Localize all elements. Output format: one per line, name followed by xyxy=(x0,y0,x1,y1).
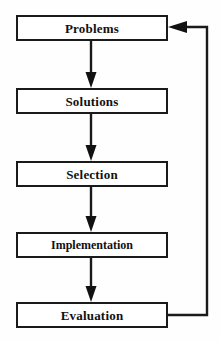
connector-problems-to-solutions xyxy=(86,41,97,88)
arrowhead-left-icon xyxy=(168,21,187,33)
flow-node-solutions[interactable]: Solutions xyxy=(16,88,168,114)
arrowhead-down-icon xyxy=(86,286,97,302)
connector-implementation-to-evaluation xyxy=(86,258,97,302)
connector-solutions-to-selection xyxy=(86,114,97,161)
connector-selection-to-implementation xyxy=(86,187,97,232)
flow-node-selection[interactable]: Selection xyxy=(16,161,168,187)
flow-node-selection-label: Selection xyxy=(66,168,118,181)
flow-node-problems-label: Problems xyxy=(65,22,119,35)
flow-node-solutions-label: Solutions xyxy=(65,95,118,108)
flow-node-implementation[interactable]: Implementation xyxy=(16,232,168,258)
arrowhead-down-icon xyxy=(86,145,97,161)
connector-evaluation-to-problems-feedback xyxy=(168,21,207,315)
flow-node-evaluation-label: Evaluation xyxy=(61,309,124,322)
flow-node-problems[interactable]: Problems xyxy=(16,15,168,41)
arrowhead-down-icon xyxy=(86,72,97,88)
flow-node-evaluation[interactable]: Evaluation xyxy=(16,302,168,328)
flow-node-implementation-label: Implementation xyxy=(51,239,133,251)
flowchart-diagram: Problems Solutions Selection Implementat… xyxy=(0,0,220,341)
arrowhead-down-icon xyxy=(86,216,97,232)
